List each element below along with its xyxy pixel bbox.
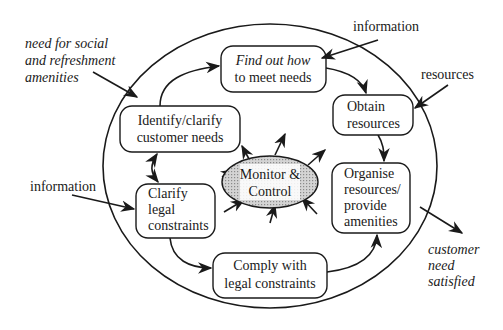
process-organise-resources[interactable]: Organise resources/ provide amenities [332, 163, 410, 233]
findout-line-2: to meet needs [235, 70, 312, 85]
output-customer-need-satisfied: customer need satisfied [420, 207, 480, 289]
svg-text:satisfied: satisfied [428, 274, 476, 289]
identify-line-2: customer needs [137, 130, 224, 145]
comply-line-1: Comply with [233, 258, 307, 273]
obtain-line-2: resources [347, 116, 400, 131]
svg-text:need: need [428, 258, 455, 273]
svg-text:resources: resources [421, 67, 474, 82]
svg-text:amenities: amenities [25, 70, 79, 85]
monitor-label-1: Monitor & [240, 167, 300, 182]
flow-comply-to-organise [327, 235, 377, 272]
process-clarify-legal[interactable]: Clarify legal constraints [136, 184, 215, 238]
clarify-line-3: constraints [148, 218, 209, 233]
input-resources: resources [415, 67, 474, 108]
svg-text:customer: customer [428, 242, 480, 257]
process-find-out-how[interactable]: Find out how to meet needs [221, 46, 326, 92]
svg-text:and refreshment: and refreshment [25, 53, 116, 68]
organise-line-1: Organise [344, 166, 394, 181]
flow-identify-clarify [152, 154, 158, 182]
svg-text:information: information [353, 19, 419, 34]
input-need-for-amenities: need for social and refreshment amenitie… [25, 36, 137, 97]
clarify-line-2: legal [148, 202, 175, 217]
clarify-line-1: Clarify [148, 186, 188, 201]
process-diagram: Monitor & Control Identify/clarify custo… [0, 0, 503, 330]
input-information-left: information [30, 179, 134, 209]
monitor-label-2: Control [249, 184, 292, 199]
svg-text:information: information [30, 179, 96, 194]
organise-line-3: provide [344, 198, 387, 213]
comply-line-2: legal constraints [224, 276, 315, 291]
obtain-line-1: Obtain [347, 99, 385, 114]
monitor-control-hub[interactable]: Monitor & Control [222, 156, 318, 208]
flow-findout-to-obtain [326, 68, 366, 93]
organise-line-2: resources/ [344, 182, 401, 197]
svg-text:need for social: need for social [25, 36, 108, 51]
process-identify-needs[interactable]: Identify/clarify customer needs [120, 106, 240, 152]
findout-line-1: Find out how [235, 53, 311, 68]
flow-clarify-to-comply [170, 238, 211, 268]
flow-obtain-to-organise [378, 135, 384, 161]
process-comply-legal[interactable]: Comply with legal constraints [213, 253, 327, 298]
flow-identify-to-findout [160, 66, 219, 106]
organise-line-4: amenities [344, 214, 398, 229]
process-obtain-resources[interactable]: Obtain resources [333, 95, 413, 135]
identify-line-1: Identify/clarify [138, 113, 223, 128]
